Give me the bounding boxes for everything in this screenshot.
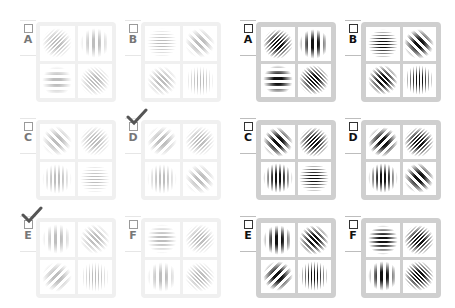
gabor-patch-icon xyxy=(299,261,329,291)
gabor-patch-icon xyxy=(147,126,177,156)
select-checkbox[interactable] xyxy=(244,220,253,229)
patch-cell xyxy=(145,162,180,197)
patch-cell xyxy=(403,260,437,294)
gabor-patch-icon xyxy=(80,262,110,292)
item-label-tab: A xyxy=(20,20,36,56)
patch-cell xyxy=(261,223,295,257)
item-label: E xyxy=(244,230,252,242)
gabor-patch-icon xyxy=(299,65,329,95)
item-label-tab: B xyxy=(125,20,141,56)
item-label: E xyxy=(24,230,32,242)
panel-left: ABCDEF xyxy=(0,0,227,308)
stimulus-card-c[interactable] xyxy=(36,120,116,200)
patch-cell xyxy=(183,162,218,197)
stimulus-card-f[interactable] xyxy=(141,218,221,298)
patch-cell xyxy=(40,124,75,159)
gabor-patch-icon xyxy=(185,164,215,194)
gabor-patch-icon xyxy=(263,163,293,193)
stimulus-card-a[interactable] xyxy=(36,22,116,102)
gabor-patch-icon xyxy=(147,28,177,58)
patch-cell xyxy=(183,64,218,99)
patch-cell xyxy=(298,223,332,257)
patch-cell xyxy=(183,260,218,295)
select-checkbox[interactable] xyxy=(24,122,33,131)
stimulus-card-a[interactable] xyxy=(256,22,336,102)
stimulus-card-e[interactable] xyxy=(256,218,336,298)
patch-cell xyxy=(78,26,113,61)
gabor-patch-icon xyxy=(185,262,215,292)
patch-cell xyxy=(40,162,75,197)
gabor-patch-icon xyxy=(42,224,72,254)
item-label: A xyxy=(244,34,253,46)
patch-cell xyxy=(78,260,113,295)
gabor-patch-icon xyxy=(42,66,72,96)
gabor-patch-icon xyxy=(80,126,110,156)
select-checkbox[interactable] xyxy=(129,220,138,229)
item-label-tab: F xyxy=(125,216,141,252)
gabor-patch-icon xyxy=(147,262,177,292)
item-label-tab: C xyxy=(240,118,256,154)
patch-cell xyxy=(261,64,295,98)
item-label: A xyxy=(24,34,33,46)
gabor-patch-icon xyxy=(299,29,329,59)
item-label: C xyxy=(24,132,32,144)
stimulus-card-c[interactable] xyxy=(256,120,336,200)
patch-cell xyxy=(261,260,295,294)
gabor-patch-icon xyxy=(404,127,434,157)
stimulus-card-b[interactable] xyxy=(141,22,221,102)
patch-cell xyxy=(145,26,180,61)
gabor-patch-icon xyxy=(368,29,398,59)
gabor-patch-icon xyxy=(404,225,434,255)
select-checkbox[interactable] xyxy=(24,24,33,33)
patch-cell xyxy=(366,125,400,159)
item-label: D xyxy=(348,132,357,144)
select-checkbox[interactable] xyxy=(349,24,358,33)
gabor-patch-icon xyxy=(80,66,110,96)
gabor-patch-icon xyxy=(147,164,177,194)
gabor-patch-icon xyxy=(42,126,72,156)
patch-cell xyxy=(40,26,75,61)
patch-cell xyxy=(298,27,332,61)
stimulus-card-e[interactable] xyxy=(36,218,116,298)
stimulus-card-b[interactable] xyxy=(361,22,441,102)
patch-cell xyxy=(78,124,113,159)
select-checkbox[interactable] xyxy=(244,24,253,33)
item-label-tab: D xyxy=(345,118,361,154)
item-label-tab: E xyxy=(240,216,256,252)
item-label-tab: B xyxy=(345,20,361,56)
select-checkbox[interactable] xyxy=(349,220,358,229)
patch-cell xyxy=(183,222,218,257)
stimulus-card-f[interactable] xyxy=(361,218,441,298)
select-checkbox[interactable] xyxy=(349,122,358,131)
select-checkbox[interactable] xyxy=(244,122,253,131)
patch-cell xyxy=(298,125,332,159)
item-label: D xyxy=(128,132,137,144)
patch-cell xyxy=(366,223,400,257)
gabor-patch-icon xyxy=(263,225,293,255)
gabor-patch-icon xyxy=(404,65,434,95)
patch-cell xyxy=(366,260,400,294)
patch-cell xyxy=(298,260,332,294)
gabor-patch-icon xyxy=(42,164,72,194)
gabor-patch-icon xyxy=(263,65,293,95)
gabor-patch-icon xyxy=(368,225,398,255)
stimulus-card-d[interactable] xyxy=(141,120,221,200)
select-checkbox[interactable] xyxy=(129,24,138,33)
panel-right: ABCDEF xyxy=(225,0,452,308)
patch-cell xyxy=(78,222,113,257)
gabor-patch-icon xyxy=(80,28,110,58)
gabor-patch-icon xyxy=(185,28,215,58)
patch-cell xyxy=(78,162,113,197)
patch-cell xyxy=(40,222,75,257)
gabor-patch-icon xyxy=(404,29,434,59)
item-label-tab: F xyxy=(345,216,361,252)
patch-cell xyxy=(366,64,400,98)
gabor-patch-icon xyxy=(404,261,434,291)
gabor-patch-icon xyxy=(185,126,215,156)
gabor-patch-icon xyxy=(404,163,434,193)
gabor-patch-icon xyxy=(147,224,177,254)
stimulus-card-d[interactable] xyxy=(361,120,441,200)
patch-cell xyxy=(78,64,113,99)
gabor-patch-icon xyxy=(299,225,329,255)
item-label-tab: A xyxy=(240,20,256,56)
